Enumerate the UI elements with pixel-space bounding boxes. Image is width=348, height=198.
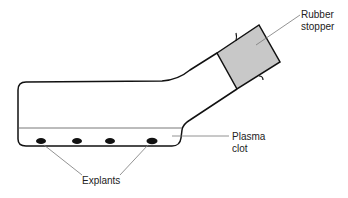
label-plasma: Plasma [232, 131, 265, 143]
explant [105, 138, 115, 144]
label-plasma-clot: Plasma clot [232, 131, 265, 155]
leader-line-explant-1 [44, 145, 82, 175]
leader-line-explant-4 [120, 145, 148, 175]
stopper-lip-top [236, 33, 237, 41]
label-stopper: stopper [301, 21, 334, 33]
label-rubber: Rubber [301, 9, 334, 21]
culture-flask-diagram [0, 0, 348, 198]
label-clot: clot [232, 143, 265, 155]
flask-outline [18, 53, 237, 146]
label-rubber-stopper: Rubber stopper [301, 9, 334, 33]
label-explants: Explants [82, 175, 120, 187]
stopper-lip-bottom [259, 76, 263, 80]
explant [36, 138, 46, 144]
explant [72, 138, 82, 144]
explant [147, 138, 158, 144]
